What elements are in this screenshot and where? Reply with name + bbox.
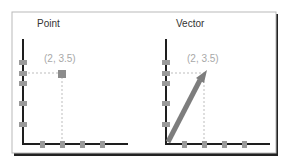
point-coord-label: (2, 3.5) bbox=[44, 53, 76, 64]
diagram: Point (2, 3.5) Vector (2, 3 bbox=[0, 0, 289, 163]
frame bbox=[12, 12, 276, 153]
point-title: Point bbox=[37, 18, 60, 29]
vector-coord-label: (2, 3.5) bbox=[187, 53, 219, 64]
vector-title: Vector bbox=[176, 18, 205, 29]
point-marker bbox=[58, 70, 66, 78]
